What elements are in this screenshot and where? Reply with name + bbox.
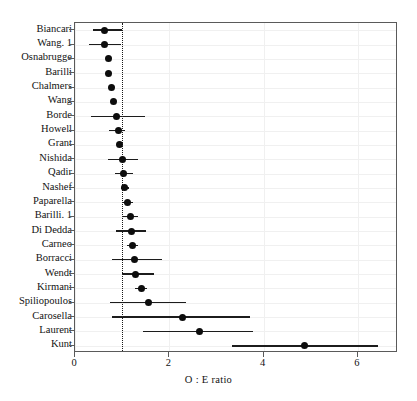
y-axis-tick — [69, 244, 74, 245]
y-axis-label: Nishida — [39, 153, 72, 163]
estimate-point — [120, 170, 127, 177]
estimate-point — [128, 228, 135, 235]
forest-row — [75, 339, 396, 353]
y-axis-label: Di Dedda — [31, 225, 72, 235]
estimate-point — [127, 213, 134, 220]
estimate-point — [116, 141, 123, 148]
estimate-point — [110, 98, 117, 105]
y-axis-label: Wendt — [45, 268, 72, 278]
forest-row — [75, 267, 396, 281]
estimate-point — [108, 84, 115, 91]
plot-area — [74, 22, 397, 352]
y-axis-tick — [69, 216, 74, 217]
estimate-point — [131, 256, 138, 263]
forest-plot: BiancariWang. 1OsnabruggeBarilliChalmers… — [0, 0, 417, 401]
y-axis-tick — [69, 273, 74, 274]
estimate-point — [196, 328, 203, 335]
forest-row — [75, 109, 396, 123]
estimate-point — [115, 127, 122, 134]
y-axis-tick — [69, 144, 74, 145]
y-axis-label: Carneo — [42, 239, 72, 249]
y-axis-label: Borracci — [36, 253, 72, 263]
estimate-point — [101, 27, 108, 34]
forest-row — [75, 138, 396, 152]
y-axis-label: Nashef — [42, 182, 72, 192]
y-axis-label: Barilli — [45, 67, 72, 77]
y-axis-tick — [69, 158, 74, 159]
forest-row — [75, 310, 396, 324]
y-axis-label: Barilli. 1 — [35, 210, 72, 220]
y-axis-tick — [69, 345, 74, 346]
x-axis-tick-label: 4 — [253, 357, 273, 368]
forest-row — [75, 23, 396, 37]
y-axis-label: Osnabrugge — [21, 52, 72, 62]
y-axis-label: Paparella — [33, 196, 72, 206]
y-axis-tick — [69, 173, 74, 174]
forest-row — [75, 181, 396, 195]
y-axis-tick — [69, 44, 74, 45]
y-axis-label: Chalmers — [32, 81, 72, 91]
forest-row — [75, 37, 396, 51]
y-axis-tick — [69, 316, 74, 317]
y-axis-label: Biancari — [36, 24, 72, 34]
forest-row — [75, 123, 396, 137]
y-axis-tick — [69, 87, 74, 88]
estimate-point — [105, 55, 112, 62]
x-axis-title: O : E ratio — [0, 374, 417, 385]
y-axis-tick — [69, 101, 74, 102]
forest-row — [75, 224, 396, 238]
y-axis-tick — [69, 302, 74, 303]
y-axis-tick — [69, 29, 74, 30]
y-axis-tick — [69, 330, 74, 331]
y-axis-tick — [69, 259, 74, 260]
forest-row — [75, 95, 396, 109]
forest-row — [75, 195, 396, 209]
forest-row — [75, 296, 396, 310]
y-axis-tick — [69, 130, 74, 131]
estimate-point — [301, 342, 308, 349]
forest-row — [75, 166, 396, 180]
estimate-point — [145, 299, 152, 306]
estimate-point — [138, 285, 145, 292]
y-axis-label: Carosella — [32, 311, 72, 321]
estimate-point — [105, 70, 112, 77]
estimate-point — [124, 199, 131, 206]
estimate-point — [132, 271, 139, 278]
y-axis-tick — [69, 230, 74, 231]
forest-row — [75, 210, 396, 224]
estimate-point — [129, 242, 136, 249]
y-axis-tick — [69, 115, 74, 116]
x-axis-tick-label: 0 — [64, 357, 84, 368]
y-axis-label: Wang. 1 — [37, 38, 72, 48]
forest-row — [75, 281, 396, 295]
forest-row — [75, 253, 396, 267]
estimate-point — [121, 184, 128, 191]
estimate-point — [179, 314, 186, 321]
forest-row — [75, 238, 396, 252]
y-axis-tick — [69, 72, 74, 73]
estimate-point — [113, 113, 120, 120]
forest-row — [75, 324, 396, 338]
y-axis-tick — [69, 201, 74, 202]
forest-row — [75, 66, 396, 80]
y-axis-label: Howell — [41, 124, 72, 134]
y-axis-tick — [69, 58, 74, 59]
x-axis-tick-label: 2 — [158, 357, 178, 368]
x-axis-tick-label: 6 — [347, 357, 367, 368]
estimate-point — [119, 156, 126, 163]
estimate-point — [101, 41, 108, 48]
y-axis-tick — [69, 287, 74, 288]
y-axis-label: Kirmani — [37, 282, 72, 292]
forest-row — [75, 52, 396, 66]
forest-row — [75, 80, 396, 94]
forest-row — [75, 152, 396, 166]
y-axis-label: Spiliopoulos — [19, 296, 72, 306]
y-axis-label: Laurent — [39, 325, 72, 335]
y-axis-tick — [69, 187, 74, 188]
